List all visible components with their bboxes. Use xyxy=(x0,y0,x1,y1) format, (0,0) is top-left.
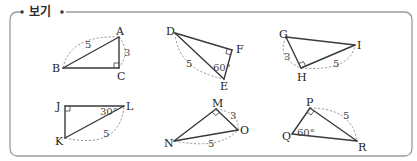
header-label: 보기 xyxy=(29,4,51,19)
triangle-mno: MNO35 xyxy=(164,97,249,150)
length-label: 3 xyxy=(230,110,236,121)
angle-label: 60° xyxy=(213,62,231,73)
vertex-label: A xyxy=(115,25,125,38)
length-label: 5 xyxy=(333,58,339,69)
vertex-label: P xyxy=(306,96,314,109)
triangle-edge xyxy=(174,109,216,141)
right-angle-icon xyxy=(65,106,70,111)
bullet-left-icon xyxy=(20,10,24,14)
vertex-label: K xyxy=(55,135,64,148)
header-label-group: 보기 xyxy=(20,4,64,19)
angle-label: 30° xyxy=(100,106,118,117)
angle-label: 60° xyxy=(297,127,315,138)
length-label: 5 xyxy=(186,58,192,69)
vertex-label: F xyxy=(236,43,244,56)
triangle-def: DEF560° xyxy=(166,25,244,93)
triangle-edge xyxy=(301,45,355,68)
vertex-label: N xyxy=(164,137,174,150)
vertex-label: O xyxy=(240,124,249,137)
length-label: 5 xyxy=(343,110,349,121)
length-label: 3 xyxy=(284,51,290,62)
vertex-label: C xyxy=(117,70,125,83)
length-label: 5 xyxy=(103,128,109,139)
vertex-label: R xyxy=(358,141,367,154)
triangle-abc: ABC53 xyxy=(52,25,130,83)
triangle-edge xyxy=(286,37,355,45)
vertex-label: H xyxy=(297,71,307,84)
length-label: 5 xyxy=(208,138,214,149)
bullet-right-icon xyxy=(60,10,64,14)
triangle-edge xyxy=(174,130,238,141)
vertex-label: Q xyxy=(282,130,291,143)
triangle-ghi: GHI35 xyxy=(279,28,361,84)
right-angle-icon xyxy=(114,63,119,68)
right-angle-icon xyxy=(212,112,220,115)
triangles-layer: ABC53DEF560°GHI35JKL530°MNO35PQR560° xyxy=(52,25,367,154)
vertex-label: J xyxy=(55,100,60,113)
vertex-label: G xyxy=(279,28,288,41)
vertex-label: M xyxy=(212,97,223,110)
vertex-label: E xyxy=(220,80,228,93)
vertex-label: L xyxy=(126,100,134,113)
length-label: 3 xyxy=(124,47,130,58)
example-diagram-box: 보기 ABC53DEF560°GHI35JKL530°MNO35PQR560° xyxy=(0,0,417,161)
triangle-pqr: PQR560° xyxy=(282,96,367,154)
vertex-label: I xyxy=(357,39,361,52)
triangle-jkl: JKL530° xyxy=(55,100,134,148)
length-label: 5 xyxy=(85,39,91,50)
vertex-label: D xyxy=(166,25,175,38)
vertex-label: B xyxy=(52,62,60,75)
